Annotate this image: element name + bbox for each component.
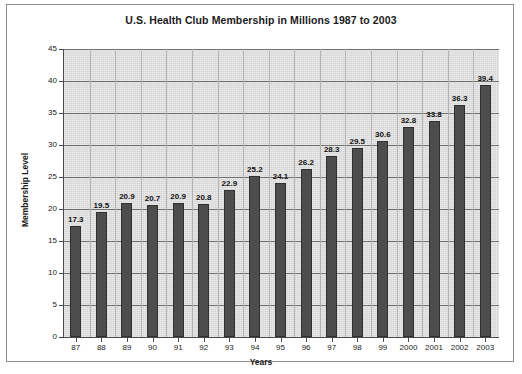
gridline-vertical <box>320 49 321 337</box>
x-axis-tick-mark <box>408 338 409 342</box>
x-axis-tick-mark <box>178 338 179 342</box>
y-axis-tick-label: 5 <box>11 300 57 309</box>
y-axis-tick-label: 10 <box>11 268 57 277</box>
x-axis-tick-mark <box>306 338 307 342</box>
y-axis-tick-mark <box>59 209 63 210</box>
x-axis-tick-mark <box>153 338 154 342</box>
bar <box>96 212 107 337</box>
bar <box>249 176 260 337</box>
x-axis-tick-mark <box>255 338 256 342</box>
y-axis-tick-label: 0 <box>11 332 57 341</box>
y-axis-tick-mark <box>59 49 63 50</box>
bar <box>147 205 158 337</box>
bar <box>275 183 286 337</box>
gridline-horizontal <box>64 49 499 50</box>
bar <box>224 190 235 337</box>
bar <box>403 127 414 337</box>
bar <box>198 204 209 337</box>
bar-value-label: 22.9 <box>211 179 247 188</box>
y-axis-tick-label: 45 <box>11 44 57 53</box>
y-axis-tick-label: 25 <box>11 172 57 181</box>
x-axis-tick-mark <box>460 338 461 342</box>
gridline-vertical <box>448 49 449 337</box>
x-axis-tick-mark <box>332 338 333 342</box>
bar <box>454 105 465 337</box>
bar-value-label: 26.2 <box>288 158 324 167</box>
y-axis-tick-label: 35 <box>11 108 57 117</box>
bar-value-label: 33.8 <box>416 110 452 119</box>
y-axis-tick-mark <box>59 241 63 242</box>
bar <box>121 203 132 337</box>
bar <box>70 226 81 337</box>
gridline-horizontal <box>64 81 499 82</box>
gridline-vertical <box>422 49 423 337</box>
x-axis-tick-mark <box>76 338 77 342</box>
bar-value-label: 24.1 <box>263 172 299 181</box>
x-axis-tick-mark <box>204 338 205 342</box>
y-axis-tick-mark <box>59 113 63 114</box>
y-axis-tick-mark <box>59 305 63 306</box>
y-axis-tick-mark <box>59 337 63 338</box>
bar-value-label: 39.4 <box>467 74 503 83</box>
x-axis-tick-mark <box>357 338 358 342</box>
bar <box>480 85 491 337</box>
y-axis-tick-mark <box>59 273 63 274</box>
y-axis-tick-mark <box>59 145 63 146</box>
bar <box>326 156 337 337</box>
gridline-vertical <box>473 49 474 337</box>
bar <box>377 141 388 337</box>
gridline-vertical <box>371 49 372 337</box>
x-axis-tick-mark <box>434 338 435 342</box>
x-axis-tick-mark <box>127 338 128 342</box>
page-title: U.S. Health Club Membership in Millions … <box>7 14 515 26</box>
bar-value-label: 20.8 <box>186 193 222 202</box>
gridline-vertical <box>90 49 91 337</box>
y-axis-tick-label: 40 <box>11 76 57 85</box>
y-axis-tick-label: 30 <box>11 140 57 149</box>
x-axis-tick-mark <box>383 338 384 342</box>
bar-value-label: 30.6 <box>365 130 401 139</box>
x-axis-tick-mark <box>485 338 486 342</box>
x-axis-tick-mark <box>101 338 102 342</box>
bar-value-label: 17.3 <box>58 215 94 224</box>
bar <box>173 203 184 337</box>
y-axis-tick-mark <box>59 177 63 178</box>
x-axis-title: Years <box>7 357 515 367</box>
gridline-vertical <box>294 49 295 337</box>
chart-page: U.S. Health Club Membership in Millions … <box>0 0 522 374</box>
bar-value-label: 28.3 <box>314 145 350 154</box>
y-axis-tick-label: 20 <box>11 204 57 213</box>
gridline-vertical <box>397 49 398 337</box>
gridline-vertical <box>269 49 270 337</box>
bar-value-label: 19.5 <box>83 201 119 210</box>
y-axis-tick-label: 15 <box>11 236 57 245</box>
chart-frame: U.S. Health Club Membership in Millions … <box>6 4 514 362</box>
x-axis-tick-label: 2003 <box>465 343 505 352</box>
gridline-vertical <box>243 49 244 337</box>
gridline-vertical <box>345 49 346 337</box>
y-axis-tick-mark <box>59 81 63 82</box>
x-axis-tick-mark <box>281 338 282 342</box>
bar <box>301 169 312 337</box>
bar <box>429 121 440 337</box>
bar <box>352 148 363 337</box>
x-axis-tick-mark <box>229 338 230 342</box>
bar-value-label: 36.3 <box>442 94 478 103</box>
